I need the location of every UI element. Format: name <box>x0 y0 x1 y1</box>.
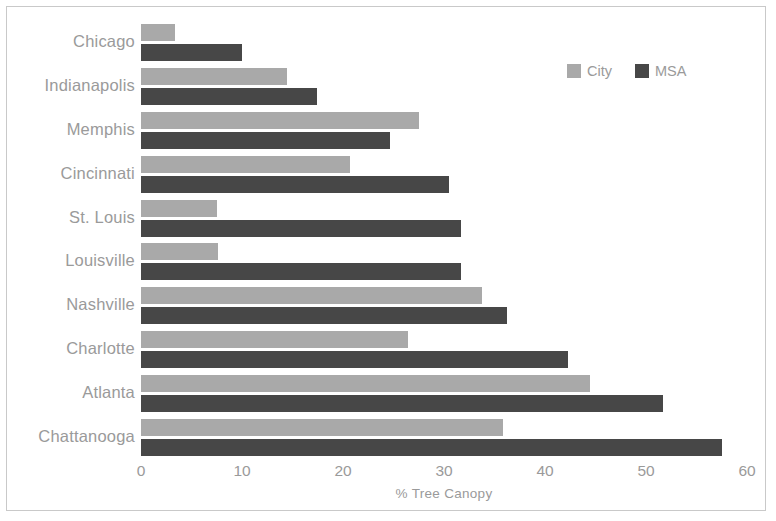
legend-label: City <box>587 63 612 79</box>
plot-area <box>141 21 747 459</box>
legend-swatch-icon <box>635 64 649 78</box>
bar-city <box>141 331 408 348</box>
bar-city <box>141 419 503 436</box>
bar-msa <box>141 439 722 456</box>
x-tick-label: 50 <box>637 462 654 480</box>
bar-group <box>141 112 747 149</box>
category-label: Atlanta <box>9 383 135 402</box>
category-label: St. Louis <box>9 208 135 227</box>
category-label: Chicago <box>9 32 135 51</box>
bar-city <box>141 156 350 173</box>
category-label: Chattanooga <box>9 427 135 446</box>
x-tick-label: 40 <box>536 462 553 480</box>
bar-city <box>141 24 175 41</box>
category-label: Charlotte <box>9 339 135 358</box>
bar-city <box>141 112 419 129</box>
bar-group <box>141 243 747 280</box>
bar-city <box>141 243 218 260</box>
legend-swatch-icon <box>567 64 581 78</box>
x-tick-label: 0 <box>137 462 146 480</box>
x-axis-ticks: 0102030405060 <box>141 462 747 486</box>
legend-item: City <box>567 63 612 79</box>
category-label: Cincinnati <box>9 164 135 183</box>
bar-group <box>141 156 747 193</box>
x-tick-label: 60 <box>738 462 755 480</box>
chart-frame: ChicagoIndianapolisMemphisCincinnatiSt. … <box>6 6 766 511</box>
x-tick-label: 30 <box>435 462 452 480</box>
bar-msa <box>141 307 507 324</box>
bar-msa <box>141 176 449 193</box>
bar-msa <box>141 88 317 105</box>
bar-msa <box>141 395 663 412</box>
category-axis: ChicagoIndianapolisMemphisCincinnatiSt. … <box>7 21 135 459</box>
bar-group <box>141 331 747 368</box>
chart-legend: CityMSA <box>567 63 686 79</box>
bar-msa <box>141 263 461 280</box>
bar-group <box>141 419 747 456</box>
bar-city <box>141 68 287 85</box>
x-tick-label: 20 <box>334 462 351 480</box>
x-tick-label: 10 <box>233 462 250 480</box>
bar-group <box>141 287 747 324</box>
category-label: Nashville <box>9 295 135 314</box>
legend-item: MSA <box>635 63 686 79</box>
bar-group <box>141 24 747 61</box>
bar-group <box>141 200 747 237</box>
category-label: Memphis <box>9 120 135 139</box>
bar-city <box>141 375 590 392</box>
bar-msa <box>141 132 390 149</box>
bar-group <box>141 375 747 412</box>
category-label: Indianapolis <box>9 76 135 95</box>
bar-msa <box>141 220 461 237</box>
bar-city <box>141 287 482 304</box>
category-label: Louisville <box>9 251 135 270</box>
bar-msa <box>141 351 568 368</box>
bar-city <box>141 200 217 217</box>
legend-label: MSA <box>655 63 686 79</box>
x-axis-title: % Tree Canopy <box>141 486 747 501</box>
bar-msa <box>141 44 242 61</box>
